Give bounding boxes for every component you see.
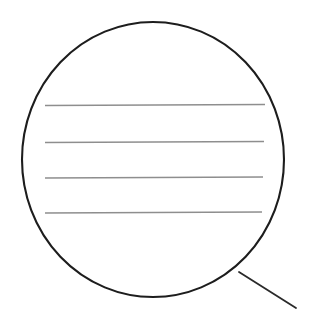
speech-bubble-outline xyxy=(22,22,284,297)
text-rule-line-4 xyxy=(45,212,262,213)
text-rule-line-1 xyxy=(45,105,265,106)
text-rule-line-2 xyxy=(45,142,264,143)
speech-bubble-diagram xyxy=(0,0,309,316)
diagram-canvas xyxy=(0,0,309,316)
text-rule-line-3 xyxy=(45,177,263,178)
